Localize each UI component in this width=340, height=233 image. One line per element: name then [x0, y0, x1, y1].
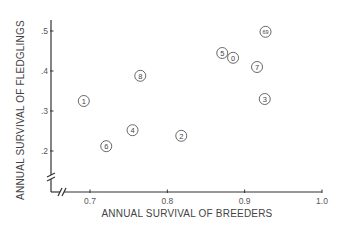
x-axis-title: ANNUAL SURVIVAL OF BREEDERS — [101, 208, 272, 219]
point-label: 4 — [130, 126, 134, 135]
data-point: 5 — [217, 48, 228, 59]
point-label: 6 — [104, 142, 108, 151]
x-tick-label: 0.8 — [161, 196, 173, 206]
data-point: 4 — [127, 125, 138, 136]
data-point: 69 — [260, 26, 271, 37]
data-point: 1 — [78, 96, 89, 107]
data-point: 3 — [259, 94, 270, 105]
point-label: 1 — [82, 97, 86, 106]
data-points: 12345678069 — [78, 26, 271, 151]
data-point: 6 — [101, 141, 112, 152]
data-point: 8 — [135, 70, 146, 81]
data-point: 7 — [252, 62, 263, 73]
y-ticks: .2.3.4.5 — [41, 26, 54, 156]
y-tick-label: .2 — [41, 146, 48, 156]
x-tick-label: 1.0 — [316, 196, 328, 206]
axes — [47, 20, 322, 196]
x-tick-label: 0.9 — [239, 196, 251, 206]
y-tick-label: .3 — [41, 106, 48, 116]
x-tick-label: 0.7 — [84, 196, 96, 206]
scatter-chart: 0.70.80.91.0 .2.3.4.5 12345678069 ANNUAL… — [0, 0, 340, 233]
y-tick-label: .5 — [41, 26, 48, 36]
point-label: 0 — [231, 54, 235, 63]
y-axis-title: ANNUAL SURVIVAL OF FLEDGLINGS — [15, 20, 26, 200]
point-label: 7 — [255, 63, 259, 72]
point-label: 8 — [138, 72, 142, 81]
y-tick-label: .4 — [41, 66, 48, 76]
point-label: 69 — [262, 29, 268, 35]
data-point: 2 — [176, 130, 187, 141]
point-label: 3 — [263, 95, 267, 104]
point-label: 5 — [220, 49, 224, 58]
point-label: 2 — [179, 132, 183, 141]
data-point: 0 — [228, 52, 239, 63]
